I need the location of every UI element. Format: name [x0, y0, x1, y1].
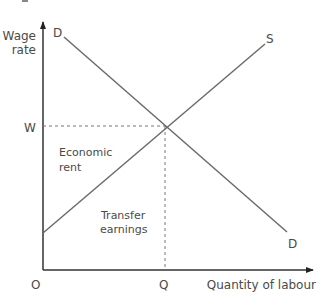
y-axis-label-line2: rate: [12, 43, 36, 57]
equilibrium-quantity-label: Q: [159, 278, 168, 292]
demand-curve: [64, 37, 287, 232]
supply-end-label: S: [266, 32, 274, 46]
supply-curve: [43, 44, 265, 233]
transfer-earnings-label-line1: Transfer: [100, 209, 146, 222]
transfer-earnings-label-line2: earnings: [100, 223, 148, 236]
cropped-text-fragment: [22, 0, 28, 2]
x-axis-label: Quantity of labour: [207, 278, 316, 292]
y-axis-label-line1: Wage: [3, 29, 36, 43]
economic-rent-label-line1: Economic: [59, 146, 112, 159]
demand-start-label: D: [53, 26, 62, 40]
origin-label: O: [31, 278, 40, 292]
equilibrium-wage-label: W: [24, 121, 36, 135]
labour-market-diagram: Wage rate Quantity of labour O W Q D D S…: [0, 0, 330, 302]
demand-end-label: D: [288, 237, 297, 251]
economic-rent-label-line2: rent: [59, 161, 82, 174]
